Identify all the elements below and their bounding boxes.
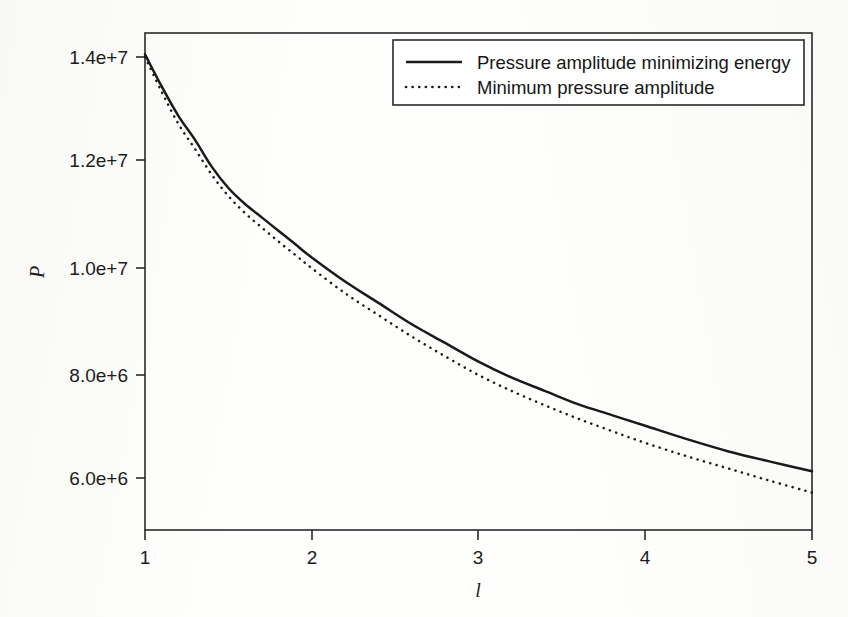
legend-label-0: Pressure amplitude minimizing energy xyxy=(477,52,791,73)
figure-page: 6.0e+6 8.0e+6 1.0e+7 1.2e+7 1.4e+7 1 2 3… xyxy=(0,0,848,617)
x-tick-label-0: 1 xyxy=(140,547,151,568)
y-tick-label-3: 1.2e+7 xyxy=(69,150,128,171)
legend-label-1: Minimum pressure amplitude xyxy=(477,77,715,98)
x-tick-label-1: 2 xyxy=(307,547,318,568)
x-tick-label-3: 4 xyxy=(640,547,651,568)
y-axis-title: P xyxy=(26,266,48,279)
y-tick-label-1: 8.0e+6 xyxy=(69,365,128,386)
x-axis-title: l xyxy=(475,579,481,601)
y-tick-label-4: 1.4e+7 xyxy=(69,47,128,68)
chart-figure: 6.0e+6 8.0e+6 1.0e+7 1.2e+7 1.4e+7 1 2 3… xyxy=(0,0,848,617)
chart-legend: Pressure amplitude minimizing energy Min… xyxy=(393,40,804,105)
y-tick-label-2: 1.0e+7 xyxy=(69,258,128,279)
series-line-pressure-amplitude-minimizing-energy xyxy=(145,54,812,471)
x-tick-label-4: 5 xyxy=(807,547,818,568)
y-tick-label-0: 6.0e+6 xyxy=(69,468,128,489)
series-line-minimum-pressure-amplitude xyxy=(145,57,812,493)
x-tick-label-2: 3 xyxy=(473,547,484,568)
plot-frame xyxy=(145,33,812,530)
x-axis-ticks xyxy=(145,530,812,540)
y-axis-ticks xyxy=(136,57,145,478)
